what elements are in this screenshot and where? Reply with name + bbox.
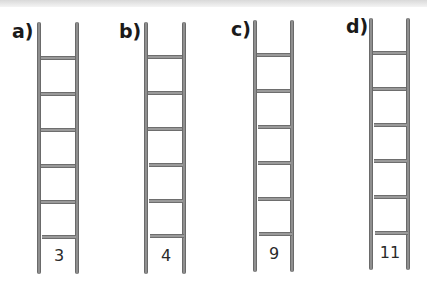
ladder-rung	[259, 232, 292, 236]
ladder-rung	[257, 53, 290, 57]
ladder-rung	[149, 163, 183, 167]
ladder-rung	[374, 123, 407, 127]
ladder-rung	[41, 56, 75, 60]
ladder-rung	[375, 231, 408, 235]
ladder-rung	[149, 199, 183, 203]
ladder-rung	[41, 200, 75, 204]
ladder-rung	[374, 195, 407, 199]
ladder-rail-left	[253, 20, 257, 272]
ladder-rung	[374, 159, 407, 163]
ladder-rail-left	[144, 22, 148, 274]
ladder-number: 11	[372, 243, 408, 262]
ladder-label: b)	[119, 20, 141, 42]
top-band	[0, 0, 427, 7]
ladder-rung	[257, 89, 290, 93]
ladder-rung	[258, 161, 291, 165]
ladder-label: d)	[346, 15, 368, 37]
ladder-rung	[150, 234, 184, 238]
ladder-rung	[41, 164, 75, 168]
ladder-rung	[148, 55, 182, 59]
ladder-rung	[373, 87, 406, 91]
ladder-rung	[373, 51, 406, 55]
ladder-rung	[148, 127, 182, 131]
ladder-number: 4	[148, 246, 184, 265]
ladder-label: a)	[12, 20, 34, 42]
ladder-rung	[41, 128, 75, 132]
ladder-rung	[258, 125, 291, 129]
ladder-rail-left	[369, 18, 373, 270]
ladder-number: 9	[256, 244, 292, 263]
ladder-rung	[42, 235, 76, 239]
ladder-number: 3	[41, 246, 77, 265]
ladder-rung	[258, 197, 291, 201]
ladder-rung	[41, 92, 75, 96]
ladder-rung	[148, 91, 182, 95]
ladder-label: c)	[231, 18, 251, 40]
